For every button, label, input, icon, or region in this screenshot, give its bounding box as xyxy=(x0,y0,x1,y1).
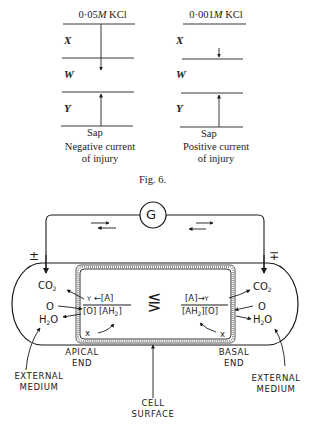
apical-end-label: APICAL END xyxy=(56,347,108,369)
right-x: x xyxy=(220,329,225,339)
cell-surface-label: CELL SURFACE xyxy=(123,398,183,420)
right-co2: CO2 xyxy=(253,281,272,293)
molar-unit: M xyxy=(214,9,223,20)
salt-name: KCl xyxy=(225,9,243,20)
center-relation-symbol: ⋚ xyxy=(147,292,161,312)
left-caption-line1: Negative current xyxy=(50,141,150,153)
left-h2o: H2O xyxy=(39,314,58,326)
right-caption-line2: of injury xyxy=(164,153,268,165)
right-polarity: ∓ xyxy=(269,249,279,263)
right-denominator: [AH2][O] xyxy=(182,306,218,317)
right-numerator: [A]→Y xyxy=(185,293,209,303)
right-layer-w: W xyxy=(176,68,186,80)
left-numerator: Y ←[A] xyxy=(87,293,113,303)
figure-label: Fig. 6. xyxy=(139,174,166,185)
left-caption: Negative current of injury xyxy=(50,141,150,165)
right-sap-label: Sap xyxy=(201,128,217,139)
concentration-value: 0·05 xyxy=(78,9,97,20)
concentration-value: 0·001 xyxy=(189,9,214,20)
right-layer-y: Y xyxy=(176,102,183,114)
left-layer-y: Y xyxy=(64,102,71,114)
right-panel-header: 0·001M KCl xyxy=(183,9,249,20)
left-layer-w: W xyxy=(64,68,74,80)
left-sap-label: Sap xyxy=(87,127,103,138)
right-o: O xyxy=(258,301,266,312)
right-h2o: H2O xyxy=(253,314,272,326)
left-polarity: ± xyxy=(29,249,39,263)
galvanometer-label: G xyxy=(146,207,156,222)
salt-name: KCl xyxy=(109,9,127,20)
external-medium-left-label: EXTERNAL MEDIUM xyxy=(6,371,72,393)
right-caption-line1: Positive current xyxy=(164,141,268,153)
right-layer-x: X xyxy=(176,34,183,46)
left-panel-header: 0·05M KCl xyxy=(70,9,135,20)
left-caption-line2: of injury xyxy=(50,153,150,165)
left-x: x xyxy=(85,328,90,338)
figure-line-art xyxy=(0,0,322,430)
left-co2: CO2 xyxy=(38,280,57,292)
basal-end-label: BASAL END xyxy=(209,347,259,369)
left-layer-x: X xyxy=(64,34,71,46)
external-medium-right-label: EXTERNAL MEDIUM xyxy=(243,373,309,395)
right-caption: Positive current of injury xyxy=(164,141,268,165)
left-o: O xyxy=(46,301,54,312)
molar-unit: M xyxy=(98,9,107,20)
left-denominator: [O] [AH2] xyxy=(83,306,122,317)
right-panel-lines xyxy=(180,24,246,127)
